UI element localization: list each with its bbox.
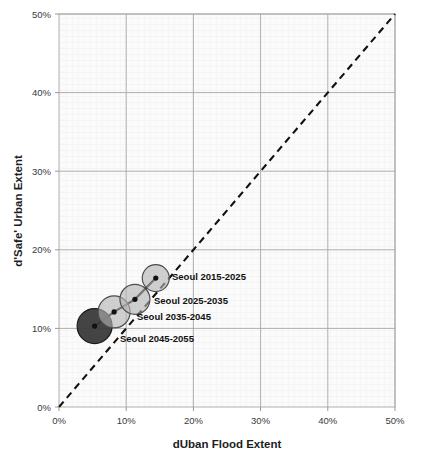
bubble-center-marker bbox=[153, 275, 158, 280]
y-tick-label: 0% bbox=[37, 402, 51, 413]
y-tick-label: 50% bbox=[32, 9, 52, 20]
point-label: Seoul 2035-2045 bbox=[137, 311, 212, 322]
x-tick-label: 10% bbox=[117, 415, 137, 426]
point-label: Seoul 2045-2055 bbox=[120, 333, 195, 344]
x-tick-label: 50% bbox=[385, 415, 405, 426]
x-tick-label: 40% bbox=[318, 415, 338, 426]
y-tick-label: 40% bbox=[32, 87, 52, 98]
point-label: Seoul 2015-2025 bbox=[172, 271, 247, 282]
x-tick-label: 30% bbox=[251, 415, 271, 426]
bubble-center-marker bbox=[112, 309, 117, 314]
bubble-center-marker bbox=[92, 323, 97, 328]
point-label: Seoul 2025-2035 bbox=[154, 295, 229, 306]
x-tick-label: 20% bbox=[184, 415, 204, 426]
x-axis-title: dUban Flood Extent bbox=[173, 438, 282, 450]
bubble-center-marker bbox=[132, 297, 137, 302]
y-tick-label: 20% bbox=[32, 244, 52, 255]
scatter-chart: 0%10%20%30%40%50%0%10%20%30%40%50% Seoul… bbox=[0, 0, 422, 458]
chart-container: 0%10%20%30%40%50%0%10%20%30%40%50% Seoul… bbox=[0, 0, 422, 458]
y-tick-label: 10% bbox=[32, 323, 52, 334]
y-tick-label: 30% bbox=[32, 166, 52, 177]
x-tick-label: 0% bbox=[52, 415, 66, 426]
y-axis-title: d'Safe' Urban Extent bbox=[12, 155, 24, 267]
